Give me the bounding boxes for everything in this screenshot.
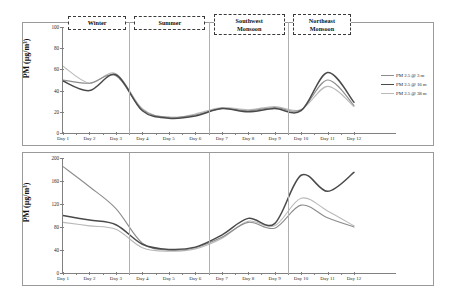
x-minor-tick-pm25-0	[76, 133, 77, 135]
season-label-line-3-0: Northeast	[294, 17, 350, 25]
x-tick-label-pm25-0: Day 1	[57, 136, 69, 141]
season-label-line-3-1: Monsoon	[294, 25, 350, 33]
x-minor-tick-pm10-6	[235, 273, 236, 275]
x-tick-label-pm10-5: Day 6	[189, 276, 201, 281]
x-axis-line-pm25	[62, 133, 396, 134]
x-minor-tick-pm25-6	[235, 133, 236, 135]
x-tick-label-pm10-1: Day 2	[83, 276, 95, 281]
y-axis-label-pm10: PM (µg/m³)	[22, 173, 31, 233]
x-tick-mark-pm25-5	[195, 132, 196, 135]
x-tick-label-pm10-4: Day 5	[163, 276, 175, 281]
x-tick-mark-pm10-0	[63, 272, 64, 275]
season-divider-pm25-1	[209, 22, 210, 134]
x-tick-mark-pm25-11	[354, 132, 355, 135]
x-tick-label-pm25-6: Day 7	[216, 136, 228, 141]
chart-panel-pm10: PM (µg/m³) 04080120160200 Day 1Day 2Day …	[0, 150, 455, 296]
y-tick-mark-pm10-2	[60, 227, 64, 228]
x-tick-mark-pm10-5	[195, 272, 196, 275]
y-tick-label-pm25-1: 20	[54, 109, 59, 115]
x-tick-mark-pm10-3	[142, 272, 143, 275]
x-tick-label-pm25-10: Day 11	[320, 136, 334, 141]
x-tick-label-pm10-9: Day 10	[294, 276, 309, 281]
y-tick-mark-pm25-5	[60, 27, 64, 28]
plot-area-pm10: 04080120160200 Day 1Day 2Day 3Day 4Day 5…	[63, 158, 354, 273]
legend-item-pm25-2[interactable]: PM 2.5 @ 38 m	[381, 89, 427, 98]
x-minor-tick-pm25-3	[156, 133, 157, 135]
season-label-line-2-0: Southwest	[215, 17, 284, 25]
y-tick-label-pm25-3: 60	[54, 66, 59, 72]
legend-item-pm25-1[interactable]: PM 2.5 @ 16 m	[381, 80, 427, 89]
x-tick-label-pm25-8: Day 9	[269, 136, 281, 141]
y-tick-mark-pm25-2	[60, 91, 64, 92]
y-tick-label-pm25-5: 100	[52, 24, 59, 30]
y-tick-label-pm10-4: 160	[52, 178, 59, 184]
x-minor-tick-pm10-3	[156, 273, 157, 275]
x-tick-mark-pm25-9	[301, 132, 302, 135]
x-minor-tick-pm25-4	[182, 133, 183, 135]
y-tick-mark-pm25-3	[60, 69, 64, 70]
x-tick-mark-pm10-11	[354, 272, 355, 275]
x-tick-mark-pm10-7	[248, 272, 249, 275]
season-label-line-2-1: Monsoon	[215, 25, 284, 33]
legend-item-pm25-0[interactable]: PM 2.5 @ 3 m	[381, 71, 427, 80]
season-label-line-1-0: Summer	[135, 19, 204, 27]
x-tick-label-pm25-9: Day 10	[294, 136, 309, 141]
legend-label-pm25-2: PM 2.5 @ 38 m	[396, 91, 427, 96]
x-minor-tick-pm10-4	[182, 273, 183, 275]
x-tick-label-pm10-6: Day 7	[216, 276, 228, 281]
x-tick-mark-pm10-1	[89, 272, 90, 275]
x-tick-label-pm25-11: Day 12	[347, 136, 362, 141]
x-tick-label-pm25-4: Day 5	[163, 136, 175, 141]
x-tick-mark-pm25-10	[328, 132, 329, 135]
x-tick-mark-pm25-2	[116, 132, 117, 135]
x-tick-label-pm10-11: Day 12	[347, 276, 362, 281]
x-tick-mark-pm10-8	[275, 272, 276, 275]
season-divider-pm10-0	[129, 153, 130, 274]
x-tick-mark-pm25-1	[89, 132, 90, 135]
legend-label-pm25-0: PM 2.5 @ 3 m	[396, 73, 424, 78]
legend-line-swatch-icon-pm25-1	[381, 84, 394, 85]
x-minor-tick-pm10-7	[261, 273, 262, 275]
x-tick-label-pm25-7: Day 8	[242, 136, 254, 141]
x-tick-label-pm10-3: Day 4	[136, 276, 148, 281]
chart-panel-pm25: PM (µg/m³) 020406080100 Day 1Day 2Day 3D…	[0, 10, 455, 148]
x-tick-label-pm25-2: Day 3	[110, 136, 122, 141]
x-tick-label-pm25-1: Day 2	[83, 136, 95, 141]
x-minor-tick-pm10-10	[341, 273, 342, 275]
season-divider-pm25-2	[288, 22, 289, 134]
y-tick-label-pm25-2: 40	[54, 88, 59, 94]
legend-line-swatch-icon-pm25-2	[381, 93, 394, 94]
legend-label-pm25-1: PM 2.5 @ 16 m	[396, 82, 427, 87]
x-tick-label-pm10-0: Day 1	[57, 276, 69, 281]
y-axis-line-pm10	[62, 158, 63, 273]
x-tick-mark-pm25-8	[275, 132, 276, 135]
y-tick-mark-pm10-1	[60, 250, 64, 251]
y-tick-mark-pm10-4	[60, 181, 64, 182]
season-label-box-winter: Winter	[68, 16, 126, 30]
x-minor-tick-pm10-1	[103, 273, 104, 275]
x-tick-label-pm25-5: Day 6	[189, 136, 201, 141]
y-tick-label-pm25-4: 80	[54, 45, 59, 51]
season-label-box-summer: Summer	[134, 16, 205, 30]
y-tick-label-pm10-2: 80	[54, 224, 59, 230]
legend-line-swatch-icon-pm25-0	[381, 75, 394, 76]
x-tick-label-pm10-2: Day 3	[110, 276, 122, 281]
x-minor-tick-pm25-7	[261, 133, 262, 135]
x-tick-mark-pm10-2	[116, 272, 117, 275]
y-tick-mark-pm10-3	[60, 204, 64, 205]
x-tick-mark-pm25-6	[222, 132, 223, 135]
season-label-box-southwest-monsoon: SouthwestMonsoon	[214, 14, 285, 35]
y-tick-mark-pm25-4	[60, 48, 64, 49]
x-axis-line-pm10	[62, 273, 396, 274]
x-tick-mark-pm25-4	[169, 132, 170, 135]
y-tick-mark-pm25-1	[60, 112, 64, 113]
x-minor-tick-pm25-1	[103, 133, 104, 135]
x-tick-mark-pm10-10	[328, 272, 329, 275]
x-tick-mark-pm10-4	[169, 272, 170, 275]
season-divider-pm10-2	[288, 153, 289, 274]
y-tick-label-pm10-1: 40	[54, 247, 59, 253]
x-tick-label-pm25-3: Day 4	[136, 136, 148, 141]
x-minor-tick-pm25-10	[341, 133, 342, 135]
x-tick-mark-pm25-0	[63, 132, 64, 135]
season-label-line-0-0: Winter	[69, 19, 125, 27]
